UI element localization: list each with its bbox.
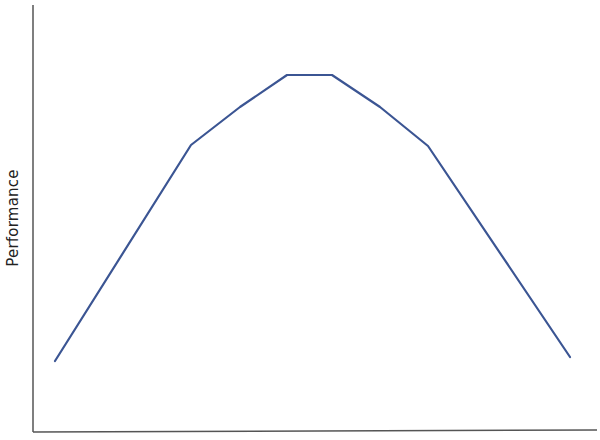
x-axis — [33, 430, 597, 432]
y-axis-label: Performance — [4, 169, 22, 266]
performance-chart — [0, 0, 600, 440]
performance-curve — [55, 75, 570, 361]
